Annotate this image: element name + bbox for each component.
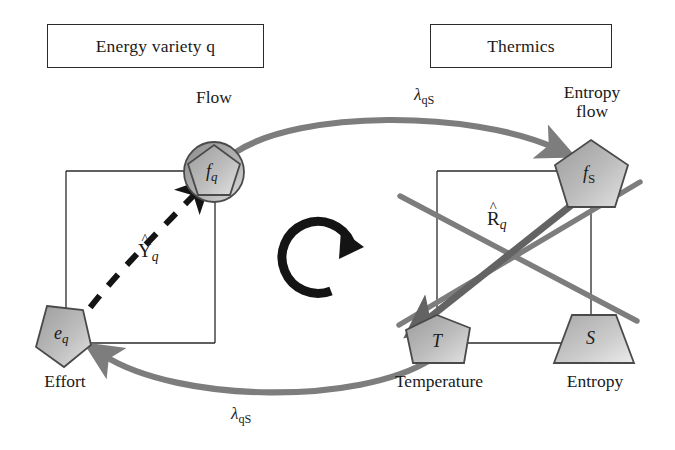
caption-entropy: Entropy (545, 372, 645, 391)
caption-flow: Flow (174, 88, 254, 107)
header-label-thermics: Thermics (487, 36, 555, 57)
r-hat-sub: q (500, 217, 507, 232)
lambda-bottom-sub: qS (238, 412, 251, 426)
arrow-capacitance-eq-to-fq (74, 193, 196, 330)
caption-effort: Effort (17, 372, 113, 391)
edge-label-lambda-bottom: λqS (231, 404, 251, 427)
caption-entropy-flow: Entropy flow (542, 83, 642, 121)
header-box-energy-variety: Energy variety q (47, 24, 264, 68)
lambda-top-sub: qS (421, 93, 434, 107)
node-symbol-fs: fS (583, 163, 595, 187)
y-hat-accent: ^ (141, 231, 148, 248)
edge-label-r-hat-q: ^ R q (487, 208, 507, 233)
node-symbol-eq-sub: q (62, 331, 68, 346)
r-hat-accent: ^ (490, 199, 497, 216)
node-symbol-fq-sub: q (211, 169, 217, 184)
node-symbol-fq: fq (206, 161, 218, 185)
edge-label-lambda-top: λqS (414, 85, 434, 108)
caption-entropy-flow-line2: flow (542, 102, 642, 121)
caption-entropy-flow-line1: Entropy (542, 83, 642, 102)
node-symbol-eq: eq (54, 323, 68, 347)
node-symbol-fs-sub: S (588, 171, 595, 186)
diagram-canvas: Energy variety q Thermics Flow Effort En… (0, 0, 675, 450)
node-symbol-eq-base: e (54, 323, 62, 343)
caption-temperature: Temperature (377, 372, 501, 391)
edge-label-y-hat-q: ^ Y q (138, 240, 159, 265)
arc-flow-to-entropy-flow (236, 120, 555, 152)
header-label-energy-variety: Energy variety q (96, 36, 216, 57)
header-box-thermics: Thermics (430, 24, 612, 68)
node-symbol-temperature: T (432, 331, 442, 352)
y-hat-sub: q (152, 249, 159, 264)
node-symbol-entropy: S (586, 328, 595, 349)
cycle-arrow (282, 221, 364, 293)
